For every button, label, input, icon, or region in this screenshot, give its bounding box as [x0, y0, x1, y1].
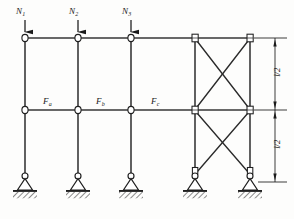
beams-group — [25, 38, 250, 110]
node-mid-2 — [75, 106, 81, 113]
dimension-label-lower: l/2 — [273, 137, 282, 151]
load-label-n2: N2 — [69, 7, 78, 16]
dimension-label-upper: l/2 — [273, 65, 282, 79]
beams-inner-line-group — [27, 38, 248, 110]
frame-drawing-canvas — [0, 0, 294, 219]
node-mid-1 — [22, 106, 28, 113]
bracing-group — [197, 41, 248, 172]
node-top-2 — [75, 34, 81, 41]
dim-arrow-upper-bottom — [273, 102, 276, 109]
vertical-load-arrows-group — [25, 20, 131, 32]
dim-arrow-lower-top — [273, 112, 276, 119]
support-pin-2 — [66, 173, 90, 198]
dim-arrow-lower-bottom — [273, 174, 276, 181]
force-label-fa: Fa — [43, 97, 52, 106]
force-label-fb-symbol: F — [96, 96, 102, 106]
dimension-lines-group — [254, 38, 287, 182]
force-label-fb: Fb — [96, 97, 105, 106]
load-label-n3: N3 — [122, 7, 131, 16]
force-label-fb-subscript: b — [102, 101, 105, 107]
dim-arrow-upper-top — [273, 40, 276, 47]
supports-group — [13, 173, 262, 198]
node-top-3 — [128, 34, 134, 41]
load-label-n3-subscript: 3 — [128, 11, 131, 17]
load-label-n1: N1 — [16, 7, 25, 16]
force-label-fc-symbol: F — [151, 96, 157, 106]
load-label-n2-subscript: 2 — [75, 11, 78, 17]
columns-group — [25, 38, 250, 174]
node-top-1 — [22, 34, 28, 41]
force-label-fc: Fc — [151, 97, 159, 106]
node-mid-3 — [128, 106, 134, 113]
support-pin-1 — [13, 173, 37, 198]
force-label-fa-symbol: F — [43, 96, 49, 106]
columns-inner-line-group — [25, 40, 250, 172]
support-pin-5 — [238, 173, 262, 198]
gusset-nodes-group — [192, 34, 253, 174]
load-label-n1-subscript: 1 — [22, 11, 25, 17]
force-label-fa-subscript: a — [49, 101, 52, 107]
structural-frame-figure: N1 N2 N3 Fa Fb Fc l/2 l/2 — [0, 0, 294, 219]
support-pin-3 — [119, 173, 143, 198]
support-pin-4 — [183, 173, 207, 198]
